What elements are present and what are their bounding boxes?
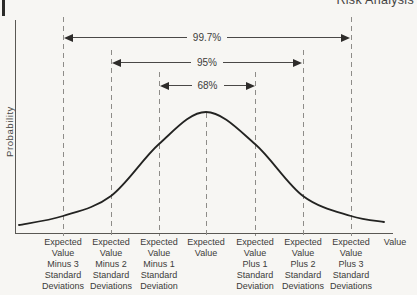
x-tick-line: Standard (84, 270, 138, 281)
arrow-line (227, 37, 341, 38)
x-tick-line: Expected (179, 237, 233, 248)
x-tick-line: Expected (276, 237, 330, 248)
bell-curve-path (19, 112, 384, 225)
arrowhead-left-icon (112, 59, 121, 67)
x-tick-line: Deviation (132, 281, 186, 292)
risk-analysis-figure: Risk Analysis Probability 99.7% 95% 68% (0, 0, 417, 295)
x-tick-line: Plus 1 (228, 259, 282, 270)
x-tick-label-plus-3sd: Expected Value Plus 3 Standard Deviation… (324, 237, 378, 292)
x-tick-line: Standard (276, 270, 330, 281)
x-tick-label-mean: Expected Value (179, 237, 233, 259)
x-tick-line: Deviations (324, 281, 378, 292)
x-tick-line: Plus 2 (276, 259, 330, 270)
arrowhead-right-icon (293, 59, 302, 67)
x-axis-label: Value (374, 237, 416, 247)
x-tick-line: Expected (228, 237, 282, 248)
x-tick-label-minus-1sd: Expected Value Minus 1 Standard Deviatio… (132, 237, 186, 292)
arrow-line (223, 62, 293, 63)
x-tick-line: Value (84, 248, 138, 259)
x-tick-line: Expected (324, 237, 378, 248)
arrow-line (121, 62, 191, 63)
x-tick-line: Standard (36, 270, 90, 281)
x-tick-line: Expected (36, 237, 90, 248)
interval-arrow-99-7: 99.7% (64, 31, 350, 44)
arrow-line (224, 85, 247, 86)
arrow-line (73, 37, 187, 38)
x-tick-line: Minus 3 (36, 259, 90, 270)
x-tick-line: Minus 1 (132, 259, 186, 270)
x-tick-line: Deviation (228, 281, 282, 292)
x-tick-line: Deviations (36, 281, 90, 292)
arrowhead-left-icon (160, 82, 169, 90)
interval-label-68: 68% (192, 80, 224, 91)
x-tick-label-plus-2sd: Expected Value Plus 2 Standard Deviation… (276, 237, 330, 292)
interval-arrow-68: 68% (160, 79, 255, 92)
x-tick-line: Value (36, 248, 90, 259)
arrowhead-right-icon (246, 82, 255, 90)
x-tick-label-minus-3sd: Expected Value Minus 3 Standard Deviatio… (36, 237, 90, 292)
x-tick-line: Value (132, 248, 186, 259)
x-tick-line: Expected (132, 237, 186, 248)
interval-arrow-95: 95% (112, 56, 302, 69)
x-tick-line: Standard (324, 270, 378, 281)
x-tick-line: Deviations (84, 281, 138, 292)
x-tick-line: Deviations (276, 281, 330, 292)
arrowhead-left-icon (64, 34, 73, 42)
x-tick-line: Value (324, 248, 378, 259)
interval-label-99-7: 99.7% (187, 32, 227, 43)
arrowhead-right-icon (341, 34, 350, 42)
x-tick-line: Standard (132, 270, 186, 281)
x-tick-line: Plus 3 (324, 259, 378, 270)
x-tick-line: Value (179, 248, 233, 259)
x-tick-line: Standard (228, 270, 282, 281)
x-tick-line: Value (228, 248, 282, 259)
x-tick-label-plus-1sd: Expected Value Plus 1 Standard Deviation (228, 237, 282, 292)
x-tick-line: Expected (84, 237, 138, 248)
x-tick-line: Minus 2 (84, 259, 138, 270)
x-tick-line: Value (276, 248, 330, 259)
arrow-line (169, 85, 192, 86)
x-tick-label-minus-2sd: Expected Value Minus 2 Standard Deviatio… (84, 237, 138, 292)
interval-label-95: 95% (191, 57, 223, 68)
